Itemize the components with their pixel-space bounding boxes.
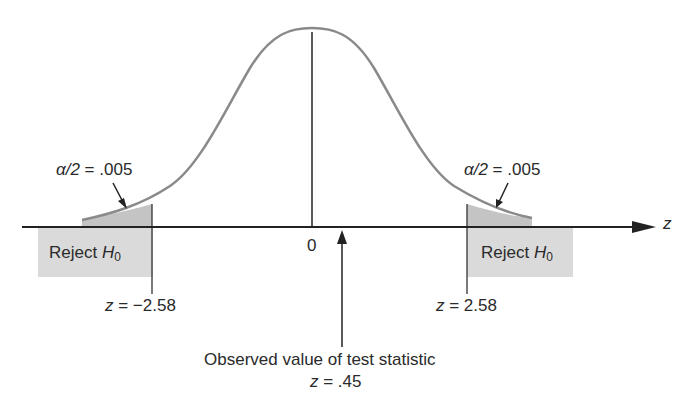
alpha-value: = .005 bbox=[488, 160, 540, 179]
axis-label-z: z bbox=[663, 214, 672, 234]
hypothesis-symbol: H bbox=[534, 243, 546, 262]
observed-arrowhead bbox=[337, 230, 347, 244]
left-alpha-arrowhead bbox=[118, 198, 127, 209]
left-critical-value: z = −2.58 bbox=[105, 296, 176, 316]
hypothesis-subscript: 0 bbox=[546, 250, 553, 264]
z-symbol: z bbox=[105, 296, 114, 315]
hypothesis-subscript: 0 bbox=[114, 250, 121, 264]
z-symbol: z bbox=[436, 296, 445, 315]
right-alpha-label: α/2 = .005 bbox=[464, 160, 540, 180]
left-reject-label: Reject H0 bbox=[49, 243, 121, 264]
right-critical-value: z = 2.58 bbox=[436, 296, 497, 316]
right-alpha-arrow bbox=[499, 183, 508, 202]
alpha-symbol: α/2 bbox=[464, 160, 488, 179]
alpha-symbol: α/2 bbox=[56, 160, 80, 179]
left-tail-area bbox=[82, 204, 152, 227]
center-tick-label: 0 bbox=[307, 236, 316, 256]
right-reject-label: Reject H0 bbox=[481, 243, 553, 264]
observed-value: z = .45 bbox=[310, 372, 362, 392]
observed-caption: Observed value of test statistic bbox=[204, 350, 436, 370]
critical-value: = −2.58 bbox=[114, 296, 176, 315]
left-alpha-label: α/2 = .005 bbox=[56, 160, 132, 180]
normal-curve-diagram bbox=[0, 0, 682, 400]
z-symbol: z bbox=[310, 372, 319, 391]
critical-value: = 2.58 bbox=[445, 296, 497, 315]
bell-curve bbox=[82, 28, 532, 220]
observed-z-value: = .45 bbox=[319, 372, 362, 391]
z-axis-arrowhead bbox=[632, 221, 656, 233]
reject-text: Reject bbox=[49, 243, 102, 262]
hypothesis-symbol: H bbox=[102, 243, 114, 262]
reject-text: Reject bbox=[481, 243, 534, 262]
alpha-value: = .005 bbox=[80, 160, 132, 179]
